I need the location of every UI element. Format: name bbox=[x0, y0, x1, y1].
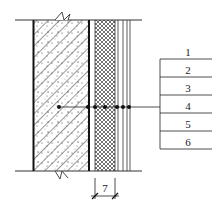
callout-label-6: 6 bbox=[185, 136, 191, 148]
callout-table: 1 2 3 4 5 6 bbox=[160, 46, 212, 149]
finish-layers bbox=[118, 20, 130, 171]
callout-label-1: 1 bbox=[185, 46, 191, 58]
wall-section-diagram: 1 2 3 4 5 6 7 bbox=[0, 0, 221, 216]
callout-label-4: 4 bbox=[185, 100, 191, 112]
callout-label-5: 5 bbox=[185, 118, 191, 130]
callout-label-3: 3 bbox=[185, 82, 191, 94]
dimension-marker: 7 bbox=[91, 178, 119, 199]
concrete-wall-layer bbox=[33, 12, 89, 179]
dimension-label: 7 bbox=[102, 182, 108, 194]
callout-label-2: 2 bbox=[185, 64, 191, 76]
insulation-layer bbox=[95, 20, 115, 171]
